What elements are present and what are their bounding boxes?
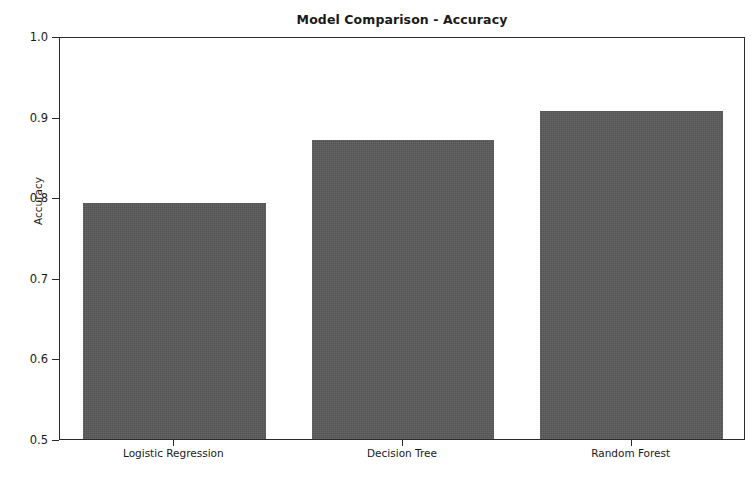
chart-title: Model Comparison - Accuracy	[59, 12, 745, 27]
bar	[83, 203, 266, 439]
y-tick-label: 0.6	[0, 352, 48, 366]
x-tick-label: Decision Tree	[367, 447, 437, 459]
x-tick-label: Random Forest	[591, 447, 670, 459]
bar	[540, 111, 723, 439]
y-tick-mark	[52, 359, 59, 360]
y-tick-mark	[52, 279, 59, 280]
y-tick-label: 0.5	[0, 433, 48, 447]
x-tick-mark	[631, 440, 632, 446]
y-tick-mark	[52, 37, 59, 38]
chart-figure: Model Comparison - Accuracy Accuracy 0.5…	[0, 0, 754, 481]
y-tick-mark	[52, 440, 59, 441]
y-tick-mark	[52, 118, 59, 119]
y-tick-mark	[52, 198, 59, 199]
x-tick-mark	[173, 440, 174, 446]
bar	[312, 140, 495, 439]
y-tick-label: 0.8	[0, 191, 48, 205]
y-tick-label: 1.0	[0, 30, 48, 44]
plot-area	[59, 37, 745, 440]
y-tick-label: 0.9	[0, 111, 48, 125]
x-tick-label: Logistic Regression	[123, 447, 224, 459]
y-tick-label: 0.7	[0, 272, 48, 286]
x-tick-mark	[402, 440, 403, 446]
